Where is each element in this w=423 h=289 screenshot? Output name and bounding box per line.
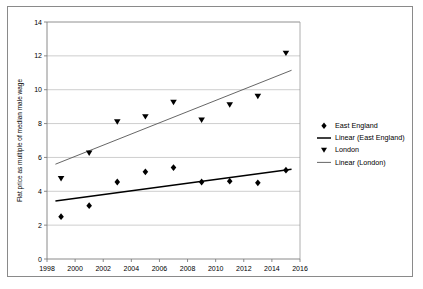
y-tick-label: 12 [34, 52, 42, 59]
y-tick-label: 8 [38, 120, 42, 127]
datapoint-london [283, 51, 290, 56]
y-tick-label: 0 [38, 256, 42, 263]
legend-label: East England [335, 121, 378, 130]
datapoint-east-england [255, 179, 261, 186]
x-tick-label: 2008 [180, 265, 196, 272]
datapoint-east-england [86, 202, 92, 209]
y-tick-label: 6 [38, 154, 42, 161]
x-tick-label: 2000 [67, 265, 83, 272]
y-tick-label: 10 [34, 86, 42, 93]
chart-area: 0246810121419982000200220042006200820102… [0, 0, 423, 289]
datapoint-east-england [227, 178, 233, 185]
x-tick-label: 1998 [39, 265, 55, 272]
x-tick-label: 2010 [208, 265, 224, 272]
datapoint-east-england [283, 167, 289, 174]
datapoint-london [142, 114, 149, 119]
x-tick-label: 2012 [236, 265, 252, 272]
datapoint-london [170, 100, 177, 105]
x-tick-label: 2006 [152, 265, 168, 272]
datapoint-london [226, 102, 233, 107]
trendline-linear-london [55, 70, 291, 164]
datapoint-london [58, 176, 65, 181]
y-tick-label: 2 [38, 222, 42, 229]
datapoint-east-england [114, 179, 120, 186]
scatter-chart: 0246810121419982000200220042006200820102… [0, 0, 423, 289]
datapoint-east-england [199, 179, 205, 186]
datapoint-london [198, 118, 205, 123]
y-tick-label: 14 [34, 19, 42, 26]
x-tick-label: 2014 [264, 265, 280, 272]
datapoint-east-england [58, 213, 64, 220]
y-tick-label: 4 [38, 188, 42, 195]
x-tick-label: 2002 [95, 265, 111, 272]
x-tick-label: 2004 [124, 265, 140, 272]
x-tick-label: 2016 [292, 265, 308, 272]
y-axis-title: Flat price as multiple of median male wa… [16, 79, 24, 203]
datapoint-east-england [143, 168, 149, 175]
legend-marker-east-england [321, 123, 326, 129]
datapoint-london [255, 94, 262, 99]
screenshot-root: 0246810121419982000200220042006200820102… [0, 0, 423, 289]
legend-label: Linear (London) [335, 158, 386, 167]
legend-label: Linear (East England) [335, 133, 405, 142]
legend-marker-london [321, 148, 327, 153]
legend-label: London [335, 145, 359, 154]
datapoint-london [86, 151, 93, 156]
trendline-linear-east-england [55, 169, 291, 201]
datapoint-east-england [171, 164, 177, 171]
